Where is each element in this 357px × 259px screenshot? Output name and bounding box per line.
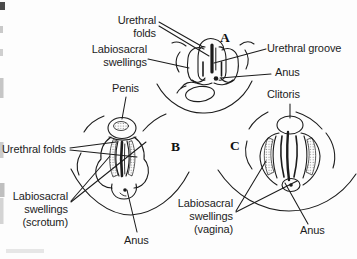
panel-a-drawing xyxy=(157,38,254,113)
panel-c-drawing xyxy=(218,112,356,211)
leader-urethral-folds-a-2 xyxy=(159,26,209,56)
leader-anus-a xyxy=(220,74,271,78)
leader-anus-c xyxy=(285,183,308,224)
leader-penis xyxy=(122,97,126,119)
label-urethral-folds-a: Urethral folds xyxy=(86,14,156,40)
panel-letter-c: C xyxy=(230,139,240,153)
label-anus-b: Anus xyxy=(124,234,149,247)
label-labiosacral-swellings-scrotum: Labiosacral swellings (scrotum) xyxy=(0,190,68,229)
genitalia-development-figure: Urethral folds Labiosacral swellings Ure… xyxy=(0,0,357,259)
leader-urethral-groove xyxy=(214,49,266,63)
label-anus-a: Anus xyxy=(275,66,300,79)
leader-labiosacral-a xyxy=(148,59,189,68)
label-labiosacral-swellings-a: Labiosacral swellings xyxy=(77,43,147,69)
label-anus-c: Anus xyxy=(300,224,325,237)
leader-scrotum-1 xyxy=(71,156,110,201)
label-clitoris: Clitoris xyxy=(267,88,300,101)
panel-letter-b: B xyxy=(171,140,180,154)
leader-urethral-folds-b-1 xyxy=(70,142,116,148)
panel-letter-a: A xyxy=(220,31,230,45)
label-urethral-folds-b: Urethral folds xyxy=(2,143,66,156)
label-urethral-groove: Urethral groove xyxy=(267,42,341,55)
label-labiosacral-swellings-vagina: Labiosacral swellings (vagina) xyxy=(165,197,233,236)
label-penis: Penis xyxy=(112,82,139,95)
